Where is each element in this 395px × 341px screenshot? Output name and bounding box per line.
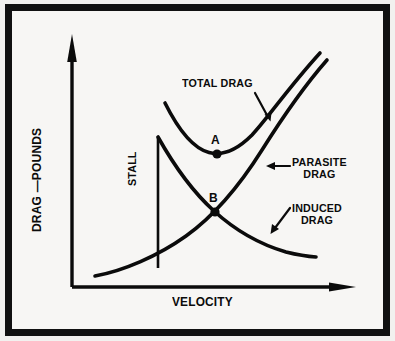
x-axis-label: VELOCITY (172, 296, 233, 309)
total-drag-leader-line (255, 93, 268, 117)
point-a-label: A (211, 134, 220, 146)
induced-drag-leader-line (275, 208, 290, 228)
y-axis-arrowhead (67, 34, 77, 62)
point-b-marker (210, 207, 219, 216)
total-drag-curve (165, 53, 320, 154)
parasite-drag-leader-arrowhead (266, 162, 275, 170)
drag-vs-velocity-figure: TOTAL DRAG PARASITE DRAG INDUCED DRAG A … (0, 0, 395, 341)
y-axis-label: DRAG —POUNDS (31, 128, 44, 232)
x-axis-arrowhead (329, 282, 356, 291)
parasite-drag-label-line2: DRAG (292, 169, 347, 181)
stall-label: STALL (127, 151, 139, 186)
induced-drag-label: INDUCED DRAG (292, 203, 342, 226)
parasite-drag-label-line1: PARASITE (292, 157, 347, 169)
induced-drag-label-line1: INDUCED (292, 203, 342, 215)
induced-drag-label-line2: DRAG (292, 215, 342, 227)
total-drag-label: TOTAL DRAG (182, 78, 253, 90)
point-b-label: B (209, 192, 218, 204)
parasite-drag-label: PARASITE DRAG (292, 157, 347, 180)
point-a-marker (212, 149, 221, 158)
